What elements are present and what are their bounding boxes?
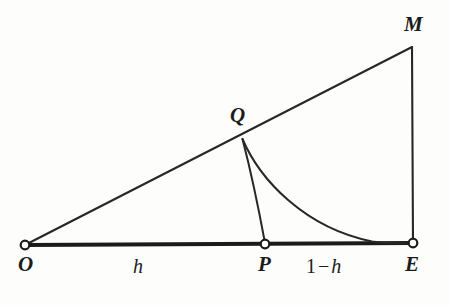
hypotenuse-segment-om (25, 47, 412, 245)
point-label-m: M (404, 14, 423, 35)
point-marker-p (261, 240, 270, 249)
figure-canvas (0, 0, 450, 305)
vertical-segment-me (412, 47, 413, 243)
segment-label-h: h (133, 256, 143, 276)
geometry-figure: O P E Q M h 1−h (0, 0, 450, 305)
segment-label-operator: − (316, 255, 331, 277)
curve-segment-qe (243, 139, 412, 243)
segment-label-variable: h (331, 255, 341, 277)
segment-label-one-minus-h: 1−h (306, 256, 341, 276)
segment-label-number: 1 (306, 255, 316, 277)
curve-segment-qp (243, 139, 266, 243)
point-label-p: P (258, 254, 271, 275)
point-marker-e (409, 239, 418, 248)
point-marker-o (21, 241, 30, 250)
point-label-e: E (405, 254, 419, 275)
baseline-segment-oe (25, 243, 413, 245)
point-label-o: O (18, 254, 33, 275)
point-label-q: Q (230, 105, 245, 126)
